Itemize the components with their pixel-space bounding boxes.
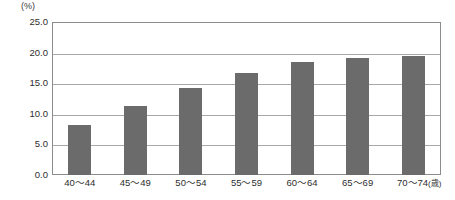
bar bbox=[124, 106, 147, 175]
bar bbox=[346, 58, 369, 176]
bar bbox=[235, 73, 258, 175]
x-axis-tick-label: 50～54 bbox=[163, 177, 219, 189]
y-axis-tick-label: 20.0 bbox=[4, 48, 48, 58]
x-axis-tick-label: 40～44 bbox=[52, 177, 108, 189]
x-axis-tick-label: 70～74(歳) bbox=[391, 177, 447, 190]
y-axis-tick-label: 15.0 bbox=[4, 78, 48, 88]
bars-group bbox=[52, 22, 441, 175]
bar-chart: (%) 25.020.015.010.05.00.0 40～4445～4950～… bbox=[0, 0, 455, 200]
x-axis-tick-labels: 40～4445～4950～5455～5960～6465～6970～74(歳) bbox=[52, 177, 441, 197]
y-axis-tick-label: 5.0 bbox=[4, 139, 48, 149]
bar bbox=[179, 88, 202, 175]
y-axis-tick-label: 0.0 bbox=[4, 170, 48, 180]
y-axis-tick-label: 10.0 bbox=[4, 109, 48, 119]
x-axis-tick-label: 45～49 bbox=[108, 177, 164, 189]
y-axis-tick-labels: 25.020.015.010.05.00.0 bbox=[0, 0, 48, 200]
bar bbox=[402, 56, 425, 175]
bar bbox=[291, 62, 314, 175]
x-axis-unit-label: (歳) bbox=[428, 179, 441, 188]
x-axis-tick-label: 65～69 bbox=[330, 177, 386, 189]
y-axis-tick-label: 25.0 bbox=[4, 17, 48, 27]
x-axis-tick-label: 55～59 bbox=[219, 177, 275, 189]
bar bbox=[68, 125, 91, 175]
x-axis-tick-label: 60～64 bbox=[274, 177, 330, 189]
